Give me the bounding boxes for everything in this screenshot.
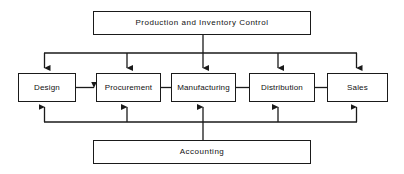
manufacturing-label: Manufacturing (177, 84, 230, 92)
manufacturing-box[interactable]: Manufacturing (171, 73, 236, 102)
procurement-box[interactable]: Procurement (96, 73, 161, 102)
design-box[interactable]: Design (18, 73, 76, 102)
sales-label: Sales (347, 84, 368, 92)
design-label: Design (34, 84, 60, 92)
production-and-inventory-control-label: Production and Inventory Control (136, 19, 269, 27)
procurement-label: Procurement (105, 84, 152, 92)
flowchart-diagram: Production and Inventory Control Design … (0, 0, 404, 174)
production-and-inventory-control-box[interactable]: Production and Inventory Control (93, 11, 311, 35)
accounting-box[interactable]: Accounting (93, 140, 311, 164)
distribution-label: Distribution (261, 84, 303, 92)
sales-box[interactable]: Sales (327, 73, 388, 102)
accounting-label: Accounting (180, 148, 225, 156)
distribution-box[interactable]: Distribution (249, 73, 315, 102)
